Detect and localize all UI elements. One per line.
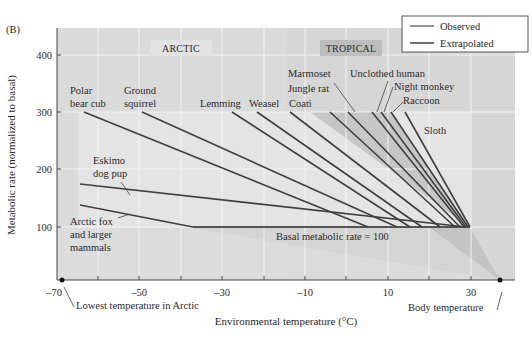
x-tick-label: –70 <box>45 287 62 298</box>
label-marmoset: Marmoset <box>288 68 331 79</box>
label-raccoon: Raccoon <box>403 95 440 106</box>
label-coati: Coati <box>289 98 312 109</box>
label-sloth: Sloth <box>424 125 447 136</box>
x-tick-label: –10 <box>296 287 313 298</box>
label-weasel: Weasel <box>249 98 279 109</box>
legend-extrapolated-label: Extrapolated <box>440 38 494 49</box>
label-eskimo-dog-pup: dog pup <box>93 168 127 179</box>
y-tick-label: 300 <box>36 107 52 118</box>
y-tick-label: 400 <box>36 50 52 61</box>
legend: Observed Extrapolated <box>402 16 528 52</box>
lowest-temp-label: Lowest temperature in Arctic <box>76 300 199 311</box>
label-polar-bear-cub: bear cub <box>70 98 106 109</box>
label-unclothed-human: Unclothed human <box>350 68 426 79</box>
label-lemming: Lemming <box>200 98 242 109</box>
x-tick-label: 10 <box>383 287 394 298</box>
body-temp-point <box>498 278 503 283</box>
label-night-monkey: Night monkey <box>394 81 455 92</box>
label-arctic-fox: Arctic fox <box>70 216 114 227</box>
y-tick-label: 100 <box>36 222 52 233</box>
label-ground-squirrel: squirrel <box>124 98 156 109</box>
label-basal-rate: Basal metabolic rate = 100 <box>276 231 389 242</box>
label-polar-bear-cub: Polar <box>70 85 93 96</box>
x-tick-label: –50 <box>130 287 147 298</box>
body-temp-label: Body temperature <box>408 302 484 313</box>
metabolic-rate-chart: ARCTIC TROPICAL –70 –50 –30 –10 10 30 40… <box>0 0 532 341</box>
legend-observed-label: Observed <box>440 21 481 32</box>
y-axis-title: Metabolic rate (normalized to basal) <box>5 75 18 235</box>
arctic-zone-label: ARCTIC <box>162 43 200 54</box>
x-tick-label: –30 <box>213 287 230 298</box>
label-arctic-fox: mammals <box>70 242 111 253</box>
label-arctic-fox: and larger <box>70 229 113 240</box>
panel-label: (B) <box>6 24 21 36</box>
label-jungle-rat: Jungle rat <box>288 83 329 94</box>
label-eskimo-dog-pup: Eskimo <box>93 155 125 166</box>
tropical-zone-label: TROPICAL <box>326 43 377 54</box>
x-tick-label: 30 <box>466 287 477 298</box>
x-axis-title: Environmental temperature (°C) <box>215 315 358 328</box>
lowest-temp-point <box>60 278 65 283</box>
label-ground-squirrel: Ground <box>124 85 157 96</box>
y-tick-label: 200 <box>36 164 52 175</box>
